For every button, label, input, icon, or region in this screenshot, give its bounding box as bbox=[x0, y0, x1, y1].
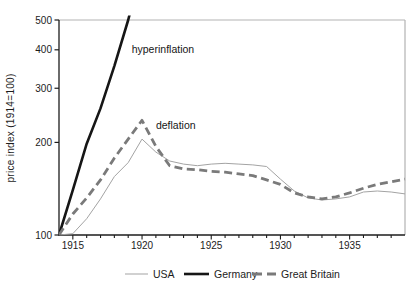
x-tick-label: 1915 bbox=[62, 240, 85, 251]
legend: USA Germany Great Britain bbox=[125, 268, 340, 280]
annotation-deflation: deflation bbox=[156, 119, 196, 131]
legend-usa-label: USA bbox=[153, 268, 175, 280]
x-tick-label: 1930 bbox=[269, 240, 292, 251]
series-line-usa bbox=[59, 139, 405, 235]
y-axis-title: price index (1914=100) bbox=[5, 73, 16, 182]
legend-great-britain-label: Great Britain bbox=[281, 268, 340, 280]
x-tick-label: 1935 bbox=[339, 240, 362, 251]
y-tick-label: 100 bbox=[35, 230, 52, 241]
y-tick-label: 500 bbox=[35, 15, 52, 26]
price-index-chart: 10020030040050019151920192519301935 pric… bbox=[0, 0, 420, 296]
x-tick-label: 1925 bbox=[200, 240, 223, 251]
chart-figure: 10020030040050019151920192519301935 pric… bbox=[0, 0, 420, 296]
y-tick-label: 300 bbox=[35, 83, 52, 94]
y-tick-label: 400 bbox=[35, 44, 52, 55]
annotation-hyperinflation: hyperinflation bbox=[132, 43, 195, 55]
series-line-germany bbox=[59, 4, 132, 235]
y-tick-label: 200 bbox=[35, 137, 52, 148]
x-tick-label: 1920 bbox=[131, 240, 154, 251]
series-line-great-britain bbox=[59, 120, 405, 235]
legend-germany-label: Germany bbox=[214, 268, 258, 280]
